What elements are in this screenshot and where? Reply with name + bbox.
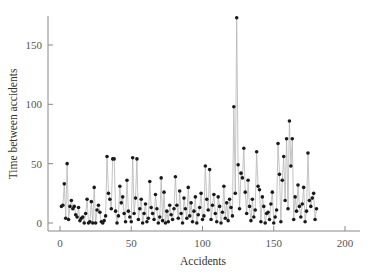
data-point [154,193,158,197]
data-point [214,212,218,216]
data-point [135,157,139,161]
x-tick-label: 50 [126,237,138,249]
data-point [204,164,208,168]
x-tick-label: 150 [266,237,283,249]
data-point [198,206,202,210]
data-point [67,218,71,222]
data-point [151,212,155,216]
data-point [262,205,266,209]
data-point [195,221,199,225]
data-point [202,214,206,218]
data-point [241,176,245,180]
data-point [125,178,129,182]
data-point [152,218,156,222]
data-point [72,205,76,209]
data-point [302,186,306,190]
data-point [252,215,256,219]
data-point [315,207,319,211]
data-point [186,186,190,190]
data-point [171,218,175,222]
data-point [179,212,183,216]
data-point [118,184,122,188]
data-point [94,221,98,225]
data-point [158,215,162,219]
data-point [242,146,246,150]
data-point [251,197,255,201]
data-point [303,220,307,224]
data-point [134,196,138,200]
data-point [70,199,74,203]
data-point [239,171,243,175]
data-point [182,196,186,200]
data-point [221,211,225,215]
data-point [281,178,285,182]
data-point [285,137,289,141]
data-point [110,207,114,211]
data-point [243,190,247,194]
data-point [238,207,242,211]
data-point [310,196,314,200]
y-tick-label: 100 [26,98,43,110]
data-point [296,183,300,187]
data-point [102,219,106,223]
data-point [169,213,173,217]
data-point [62,182,66,186]
data-point [61,203,65,207]
data-point [97,203,101,207]
series-line [61,18,316,223]
data-point [138,207,142,211]
data-point [119,201,123,205]
data-point [256,184,260,188]
x-axis-title: Accidents [180,255,227,267]
data-point [185,216,189,220]
data-point [115,221,119,225]
data-point [75,215,79,219]
data-point [149,206,153,210]
data-point [82,221,86,225]
data-point [269,202,273,206]
data-point [68,205,72,209]
data-point [235,16,239,20]
data-point [309,205,313,209]
data-point [98,211,102,215]
data-point [85,197,89,201]
data-point [224,216,228,220]
data-point [225,201,229,205]
data-point [157,221,161,225]
data-point [229,206,233,210]
data-point [174,175,178,179]
data-point [313,218,317,222]
data-point [132,212,136,216]
data-point [282,155,286,159]
data-point [228,197,232,201]
data-point [286,207,290,211]
data-point [189,201,193,205]
data-point [233,192,237,196]
data-point [298,205,302,209]
x-tick-label: 100 [194,237,211,249]
data-point [176,216,180,220]
data-point [268,218,272,222]
plot-area [60,16,319,225]
data-point [141,221,145,225]
y-axis: 050100150 [26,16,54,231]
data-point [199,192,203,196]
data-point [147,216,151,220]
data-point [181,221,185,225]
data-point [92,186,96,190]
y-tick-label: 50 [31,158,43,170]
data-point [162,190,166,194]
data-point [201,218,205,222]
data-point [137,218,141,222]
data-point [65,162,69,166]
data-point [112,157,116,161]
data-point [312,192,316,196]
data-point [196,213,200,217]
data-point [192,209,196,213]
data-point [205,197,209,201]
data-point [122,212,126,216]
data-point [104,214,108,218]
data-point [289,164,293,168]
data-point [245,212,249,216]
data-point [144,202,148,206]
